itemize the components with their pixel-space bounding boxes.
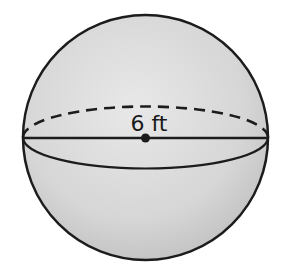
- radius-label: 6 ft: [131, 111, 168, 136]
- sphere-diagram: 6 ft: [0, 0, 291, 275]
